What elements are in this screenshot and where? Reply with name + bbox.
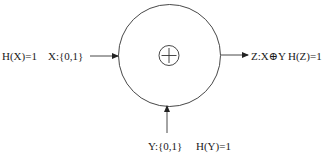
input-x-alphabet-label: X:{0,1} (48, 50, 83, 62)
output-z-entropy-label: H(Z)=1 (288, 50, 322, 63)
xor-operator-icon (159, 46, 179, 66)
input-y-alphabet-label: Y:{0,1} (148, 140, 182, 152)
input-x-entropy-label: H(X)=1 (2, 50, 37, 63)
output-z-expression-label: Z:X⊕Y (251, 50, 286, 62)
xor-diagram: H(X)=1 X:{0,1} Z:X⊕Y H(Z)=1 Y:{0,1} H(Y)… (0, 0, 335, 163)
input-y-entropy-label: H(Y)=1 (196, 140, 231, 153)
